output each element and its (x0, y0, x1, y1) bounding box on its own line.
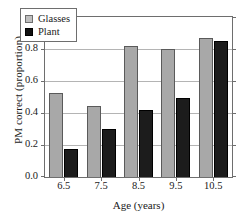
x-tick-label: 6.5 (44, 180, 84, 191)
y-tick-label: 0.0 (16, 171, 38, 181)
y-tick-label: 0.6 (16, 75, 38, 85)
legend-label: Plant (38, 26, 60, 37)
bar-plant (64, 149, 78, 177)
bar-plant (214, 41, 228, 177)
y-tick-mark-right (232, 81, 236, 82)
y-tick-mark-right (232, 113, 236, 114)
x-tick-label: 10.5 (193, 180, 233, 191)
x-tick-label: 7.5 (81, 180, 121, 191)
x-tick-label: 8.5 (119, 180, 159, 191)
y-tick-mark-left (41, 49, 45, 50)
x-axis-title: Age (years) (44, 199, 233, 211)
y-tick-label: 0.2 (16, 139, 38, 149)
chart-figure: PM correct (proportion) 1.00.80.60.40.20… (0, 0, 249, 221)
legend-swatch-icon (25, 15, 33, 23)
bar-glasses (124, 46, 138, 177)
legend-swatch-icon (25, 28, 33, 36)
y-tick-label: 0.8 (16, 43, 38, 53)
legend-item: Glasses (25, 12, 70, 25)
legend-label: Glasses (38, 13, 70, 24)
bar-glasses (49, 93, 63, 177)
bar-plant (176, 98, 190, 177)
y-tick-mark-left (41, 81, 45, 82)
chart-legend: GlassesPlant (20, 8, 77, 42)
bar-glasses (199, 38, 213, 177)
legend-item: Plant (25, 25, 70, 38)
x-axis-tick-labels: 6.57.58.59.510.5 (44, 180, 233, 196)
y-tick-label: 0.4 (16, 107, 38, 117)
bar-plant (139, 110, 153, 177)
bar-glasses (87, 106, 101, 177)
y-tick-mark-left (41, 113, 45, 114)
y-tick-mark-right (232, 17, 236, 18)
y-tick-mark-left (41, 145, 45, 146)
y-tick-mark-right (232, 176, 236, 177)
y-tick-mark-left (41, 176, 45, 177)
y-tick-mark-right (232, 145, 236, 146)
bar-glasses (161, 49, 175, 177)
bar-plant (102, 129, 116, 177)
x-tick-label: 9.5 (156, 180, 196, 191)
y-tick-mark-right (232, 49, 236, 50)
